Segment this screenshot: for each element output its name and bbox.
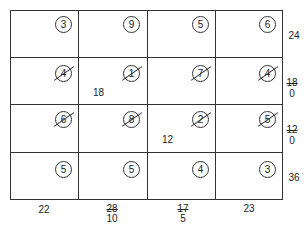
row-divider xyxy=(10,57,283,58)
row-divider xyxy=(10,152,283,153)
cost-cell-r0-c1: 9 xyxy=(123,16,140,33)
cost-cell-r2-c3: 5 xyxy=(259,111,276,128)
supply-row-1: 0 xyxy=(281,88,303,99)
column-divider xyxy=(215,10,216,200)
cost-cell-r1-c0: 4 xyxy=(55,65,72,82)
allocation-r2-c2: 12 xyxy=(162,134,173,145)
row-divider xyxy=(10,104,283,105)
demand-col-1: 10 xyxy=(101,213,123,224)
cost-cell-r3-c0: 5 xyxy=(55,161,72,178)
column-divider xyxy=(147,10,148,200)
demand-col-3: 23 xyxy=(238,203,260,214)
demand-col-0: 22 xyxy=(33,204,55,215)
cost-cell-r3-c1: 5 xyxy=(123,161,140,178)
demand-col-2: 5 xyxy=(172,213,194,224)
supply-row-1-old: 18 xyxy=(281,77,303,88)
supply-row-0: 24 xyxy=(283,30,305,41)
cost-cell-r0-c0: 3 xyxy=(55,16,72,33)
supply-row-2-old: 12 xyxy=(281,124,303,135)
cost-cell-r0-c3: 6 xyxy=(259,16,276,33)
cost-cell-r2-c1: 8 xyxy=(123,111,140,128)
cost-cell-r1-c2: 7 xyxy=(192,65,209,82)
cost-cell-r1-c3: 4 xyxy=(259,65,276,82)
cost-cell-r3-c2: 4 xyxy=(192,161,209,178)
cost-cell-r2-c0: 6 xyxy=(55,111,72,128)
supply-row-2: 0 xyxy=(281,135,303,146)
cost-cell-r3-c3: 3 xyxy=(259,161,276,178)
supply-row-3: 36 xyxy=(283,172,305,183)
cost-cell-r1-c1: 1 xyxy=(123,65,140,82)
allocation-r1-c1: 18 xyxy=(93,87,104,98)
column-divider xyxy=(78,10,79,200)
cost-cell-r2-c2: 2 xyxy=(192,111,209,128)
cost-cell-r0-c2: 5 xyxy=(192,16,209,33)
